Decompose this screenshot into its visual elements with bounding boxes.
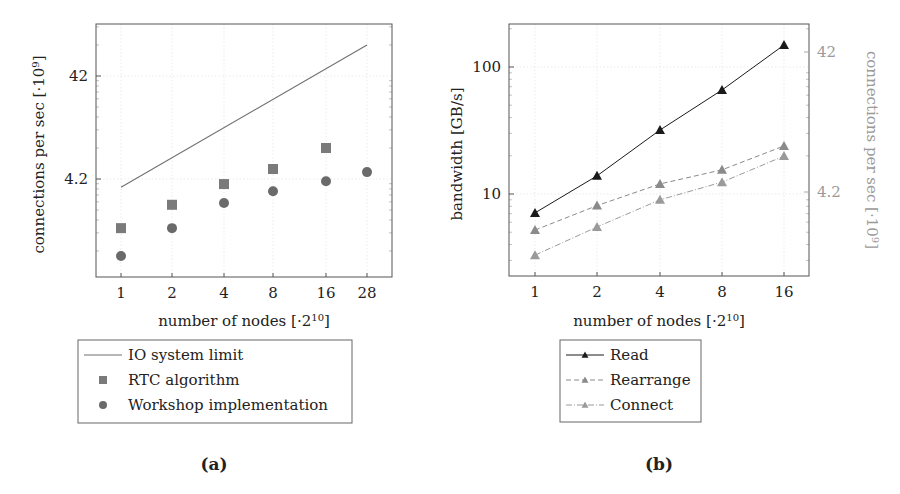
triangle-marker [592, 222, 602, 231]
y-tick-label: 100 [472, 58, 501, 76]
circle-marker [321, 176, 331, 186]
y-tick-label: 4.2 [64, 170, 88, 188]
circle-marker [167, 223, 177, 233]
circle-marker [219, 198, 229, 208]
series-read [530, 40, 789, 217]
circle-marker [268, 186, 278, 196]
y-axis-label: connections per sec [·109] [30, 55, 49, 253]
plot-frame [96, 24, 392, 277]
circle-marker [362, 167, 372, 177]
legend-label: IO system limit [128, 346, 243, 364]
series-rtc-algorithm [116, 143, 331, 233]
legend-label: Workshop implementation [128, 396, 328, 414]
y-tick-label: 42 [69, 67, 88, 85]
circle-marker [116, 251, 126, 261]
x-tick-label: 8 [268, 284, 278, 302]
y-right-tick-label: 42 [817, 43, 836, 61]
triangle-marker [779, 141, 789, 150]
minor-ticks [509, 29, 809, 261]
triangle-marker [530, 208, 540, 217]
y-axis-label: bandwidth [GB/s] [448, 88, 466, 221]
chart-a: 124816284.242number of nodes [·210]conne… [30, 24, 393, 474]
square-marker [167, 200, 177, 210]
plot-frame [509, 24, 809, 276]
square-marker [116, 223, 126, 233]
triangle-marker [530, 225, 540, 234]
square-marker [268, 164, 278, 174]
series-rearrange [530, 141, 789, 234]
triangle-marker [655, 125, 665, 134]
legend-label: Read [610, 346, 649, 364]
triangle-marker [717, 165, 727, 174]
y-right-tick-label: 4.2 [817, 183, 841, 201]
x-tick-label: 4 [219, 284, 229, 302]
figure: 124816284.242number of nodes [·210]conne… [0, 0, 900, 494]
legend: IO system limitRTC algorithmWorkshop imp… [78, 340, 352, 423]
x-tick-label: 28 [357, 284, 376, 302]
x-tick-label: 16 [774, 283, 793, 301]
subfigure-caption: (b) [645, 454, 673, 474]
y-right-axis-label: connections per sec [·109] [863, 51, 882, 249]
series-connect [530, 151, 789, 259]
square-marker [219, 179, 229, 189]
subfigure-caption: (a) [200, 454, 227, 474]
x-tick-label: 2 [167, 284, 177, 302]
triangle-marker [779, 40, 789, 49]
x-tick-label: 8 [717, 283, 727, 301]
x-tick-label: 1 [530, 283, 540, 301]
legend-label: Rearrange [610, 371, 691, 389]
triangle-marker [592, 201, 602, 210]
minor-ticks [96, 27, 392, 251]
legend-label: Connect [610, 396, 673, 414]
x-tick-label: 2 [592, 283, 602, 301]
triangle-marker [779, 151, 789, 160]
triangle-marker [717, 177, 727, 186]
grid [509, 24, 809, 276]
x-tick-label: 16 [316, 284, 335, 302]
triangle-marker [592, 171, 602, 180]
x-tick-label: 1 [116, 284, 126, 302]
x-axis-label: number of nodes [·210] [158, 312, 330, 331]
square-marker [321, 143, 331, 153]
triangle-marker [530, 250, 540, 259]
legend: ReadRearrangeConnect [560, 340, 701, 422]
series-io-system-limit [121, 45, 367, 187]
y-tick-label: 10 [482, 185, 501, 203]
triangle-marker [717, 85, 727, 94]
grid [96, 24, 392, 277]
legend-label: RTC algorithm [128, 371, 240, 389]
x-tick-label: 4 [655, 283, 665, 301]
chart-b: 124816101004.242connections per sec [·10… [448, 24, 882, 474]
series-workshop-implementation [116, 167, 372, 261]
x-axis-label: number of nodes [·210] [573, 312, 745, 331]
